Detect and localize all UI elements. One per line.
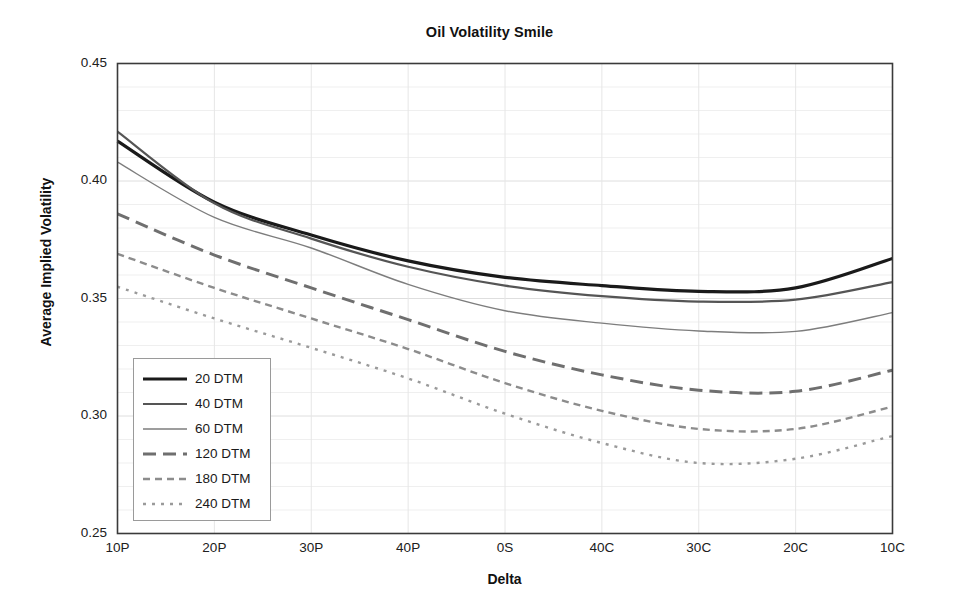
legend-label: 240 DTM bbox=[195, 496, 251, 511]
y-axis-title: Average Implied Volatility bbox=[38, 152, 54, 372]
y-tick-label: 0.35 bbox=[55, 290, 107, 305]
x-tick-label: 30C bbox=[659, 540, 739, 555]
x-tick-label: 20C bbox=[756, 540, 836, 555]
legend-item[interactable]: 40 DTM bbox=[134, 391, 270, 416]
legend-label: 60 DTM bbox=[195, 421, 243, 436]
chart-container: Oil Volatility Smile 0.450.400.350.300.2… bbox=[0, 0, 979, 611]
x-tick-label: 30P bbox=[271, 540, 351, 555]
x-tick-label: 0S bbox=[465, 540, 545, 555]
y-tick-label: 0.30 bbox=[55, 407, 107, 422]
x-tick-label: 40P bbox=[368, 540, 448, 555]
x-tick-label: 10C bbox=[853, 540, 933, 555]
legend-item[interactable]: 240 DTM bbox=[134, 491, 270, 516]
legend-swatch-icon bbox=[142, 397, 188, 411]
legend-label: 180 DTM bbox=[195, 471, 251, 486]
legend-swatch-icon bbox=[142, 472, 188, 486]
legend-item[interactable]: 20 DTM bbox=[134, 366, 270, 391]
legend-swatch-icon bbox=[142, 497, 188, 511]
legend-item[interactable]: 120 DTM bbox=[134, 441, 270, 466]
x-tick-label: 20P bbox=[174, 540, 254, 555]
x-axis-title: Delta bbox=[117, 571, 892, 587]
y-tick-label: 0.25 bbox=[55, 525, 107, 540]
y-tick-label: 0.40 bbox=[55, 172, 107, 187]
y-tick-label: 0.45 bbox=[55, 55, 107, 70]
legend-swatch-icon bbox=[142, 422, 188, 436]
legend-swatch-icon bbox=[142, 372, 188, 386]
chart-legend: 20 DTM40 DTM60 DTM120 DTM180 DTM240 DTM bbox=[133, 358, 271, 521]
x-tick-label: 40C bbox=[562, 540, 642, 555]
legend-swatch-icon bbox=[142, 447, 188, 461]
legend-label: 120 DTM bbox=[195, 446, 251, 461]
legend-item[interactable]: 180 DTM bbox=[134, 466, 270, 491]
legend-item[interactable]: 60 DTM bbox=[134, 416, 270, 441]
x-tick-label: 10P bbox=[78, 540, 158, 555]
legend-label: 40 DTM bbox=[195, 396, 243, 411]
legend-label: 20 DTM bbox=[195, 371, 243, 386]
